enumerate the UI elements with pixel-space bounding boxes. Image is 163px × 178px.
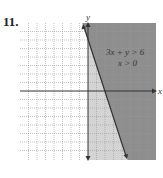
y-axis-label: y: [85, 12, 90, 22]
x-axis-label: x: [157, 86, 162, 96]
inequality-label-1: 3x + y > 6: [105, 47, 145, 57]
inequality-label-2: x > 0: [117, 58, 138, 68]
inequality-graph: y x 3x + y > 6 x > 0: [0, 0, 163, 178]
